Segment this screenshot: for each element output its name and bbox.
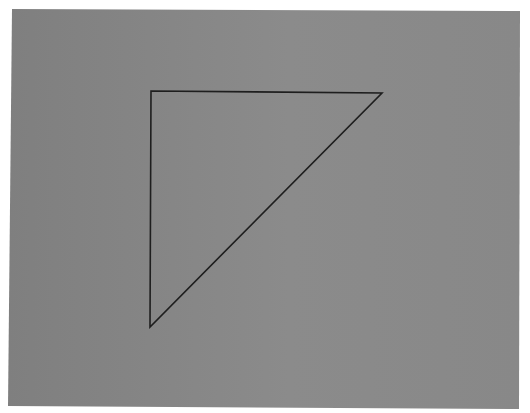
diagram-svg	[0, 0, 530, 413]
diagram-canvas	[0, 0, 530, 413]
gray-panel	[8, 9, 520, 409]
